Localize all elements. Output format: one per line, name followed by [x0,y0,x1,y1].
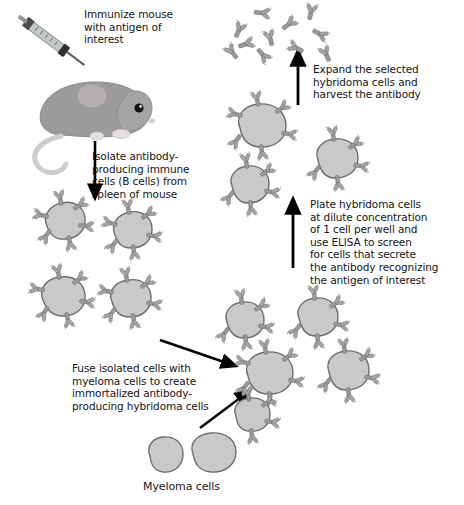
selected-hybridoma-cell [305,124,371,192]
b-cell [27,262,96,330]
step-label-immunize: Immunize mouse with antigen of interest [84,8,173,46]
b-cell [100,197,164,261]
myeloma-cell [192,433,236,472]
step-label-isolate: Isolate antibody- producing immune cells… [92,150,189,200]
myeloma-cells-caption: Myeloma cells [143,481,220,494]
syringe-with-antigen [15,12,88,71]
b-cell [31,188,95,253]
selected-hybridoma-cell [219,151,282,217]
free-antibodies [221,2,335,67]
step-label-fuse: Fuse isolated cells with myeloma cells t… [72,362,209,412]
selected-hybridoma-cell [225,89,299,161]
myeloma-cell [149,437,183,472]
step-label-expand-harvest: Expand the selected hybridoma cells and … [313,63,421,101]
b-cell [96,265,164,330]
arrow-bcells-to-fusion [160,340,224,362]
hybridoma-cell [316,336,382,404]
step-label-plate-elisa: Plate hybridoma cells at dilute concentr… [310,198,438,286]
